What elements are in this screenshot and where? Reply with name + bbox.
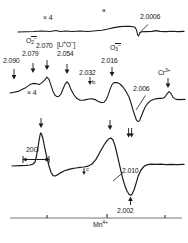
g-2-070-label: 2.070 — [36, 42, 53, 49]
gain-mid-label: × 4 — [27, 89, 36, 96]
trace-c — [12, 133, 184, 195]
epr-spectra-figure: a × 4 2.0006 O2– 2.070 [Li+O–] 2.079 2.0… — [0, 0, 188, 243]
marker-arrows — [12, 60, 171, 205]
g-2-010-label: 2.010 — [122, 167, 139, 174]
species-o3-minus-label: O3– — [110, 43, 120, 52]
g-2-032-label: 2.032 — [79, 69, 96, 76]
arrow-c-double — [126, 128, 133, 138]
panel-b-label: b — [92, 79, 95, 85]
arrow-2-002 — [128, 197, 133, 206]
arrow-c-peak2 — [108, 120, 113, 130]
arrow-2-054 — [65, 64, 70, 74]
g-2-002-label: 2.002 — [117, 207, 134, 214]
arrow-c-peak1 — [39, 118, 44, 128]
scale-bar-label: 20G — [26, 146, 39, 153]
field-axis — [10, 214, 182, 218]
pointer-2-006 — [136, 96, 146, 111]
g-2-079-label: 2.079 — [22, 50, 39, 57]
g-2-0006-label: 2.0006 — [140, 13, 160, 20]
panel-a-label: a — [102, 7, 105, 13]
o2-minus-glyph: O2– — [26, 36, 36, 45]
g-2-016-label: 2.016 — [101, 57, 118, 64]
panel-c-label: c — [86, 166, 89, 172]
trace-b — [10, 77, 185, 121]
arrow-2-079 — [31, 63, 36, 73]
arrow-cr3 — [166, 78, 171, 88]
species-li-o-center-label: [Li+O–] — [57, 40, 75, 49]
arrow-2-016 — [110, 67, 115, 77]
pointer-2-010 — [113, 173, 123, 181]
species-cr3-label: Cr3+ — [158, 68, 170, 76]
species-mn4-label: Mn4+ — [93, 220, 108, 228]
g-2-006-label: 2.006 — [133, 85, 150, 92]
species-o2-minus-label: O2– — [26, 36, 36, 45]
o3-minus-glyph: O3– — [110, 43, 120, 52]
arrow-2-070 — [45, 60, 50, 70]
arrow-2-090 — [12, 69, 17, 80]
g-2-090-label: 2.090 — [3, 57, 20, 64]
gain-top-label: × 4 — [43, 14, 52, 21]
g-2-054-label: 2.054 — [57, 50, 74, 57]
trace-a — [18, 26, 184, 36]
